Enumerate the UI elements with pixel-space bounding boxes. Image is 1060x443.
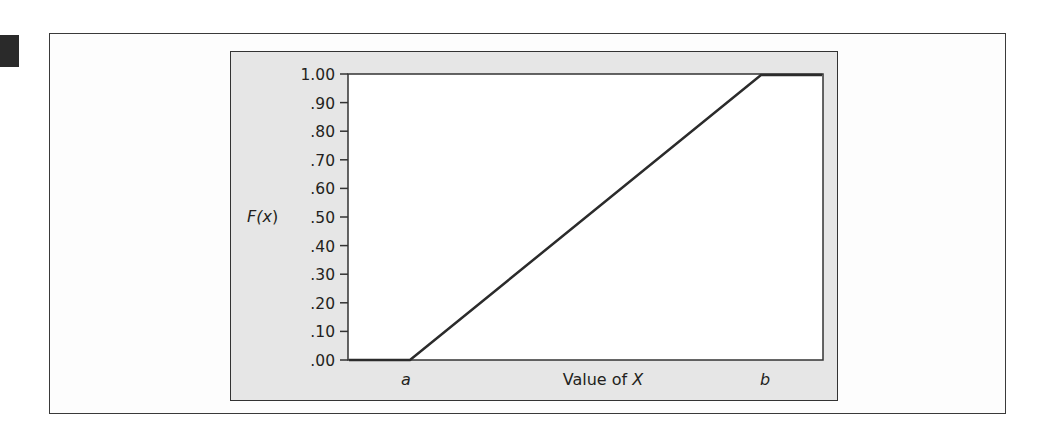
y-tick-label: .20 [310, 295, 335, 313]
y-tick-label: .50 [310, 209, 335, 227]
y-tick-label: .10 [310, 323, 335, 341]
y-tick-label: .30 [310, 266, 335, 284]
y-tick-label: .60 [310, 180, 335, 198]
y-tick-label: .80 [310, 123, 335, 141]
y-tick-label: .00 [310, 352, 335, 370]
y-axis-label: F(x) [247, 207, 278, 226]
y-tick-label: .90 [310, 95, 335, 113]
y-tick-label: 1.00 [300, 66, 335, 84]
y-tick-label: .40 [310, 238, 335, 256]
x-axis-label: Value of X [563, 370, 645, 389]
cdf-chart: .00 .10 .20 .30 .40 .50 .60 .70 .80 .90 … [0, 0, 1060, 443]
x-tick-label-b: b [760, 370, 770, 389]
y-ticks [340, 74, 348, 360]
x-tick-label-a: a [401, 370, 411, 389]
y-tick-label: .70 [310, 152, 335, 170]
y-tick-labels: .00 .10 .20 .30 .40 .50 .60 .70 .80 .90 … [300, 66, 335, 370]
